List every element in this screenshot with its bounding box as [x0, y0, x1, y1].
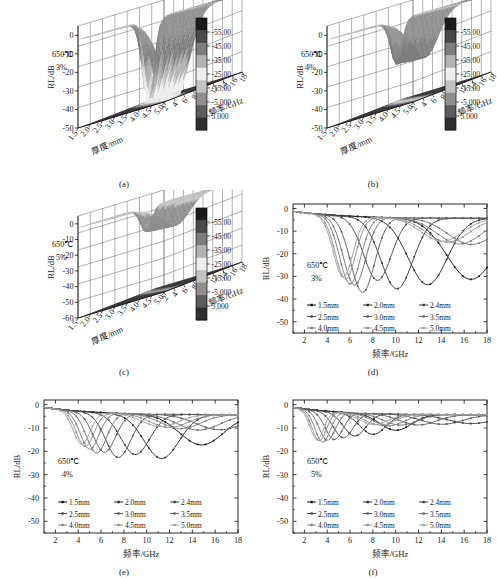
- series-marker: [413, 218, 415, 220]
- series-marker: [421, 420, 423, 422]
- colorbar-tick-label: -45.00: [212, 42, 232, 51]
- panel-e: 246810121416180-10-20-30-40-50频率/GHzRL/d…: [0, 378, 248, 578]
- legend-item-label: 3.5mm: [430, 313, 451, 322]
- series-marker: [470, 223, 472, 225]
- legend-item-label: 2.0mm: [374, 498, 395, 507]
- legend-item-label: 4.5mm: [374, 521, 395, 530]
- y-tick-label: 4: [170, 290, 180, 298]
- series-marker: [221, 429, 223, 431]
- series-marker: [349, 274, 351, 276]
- colorbar-swatch: [196, 308, 207, 321]
- series-marker: [156, 420, 158, 422]
- x-tick-label: 18: [483, 536, 491, 545]
- series-marker: [462, 275, 464, 277]
- z-tick-label: 0: [69, 31, 73, 40]
- annotation-concentration: 3%: [56, 63, 67, 72]
- series-marker: [132, 424, 134, 426]
- series-marker: [156, 425, 158, 427]
- legend-swatch-marker: [173, 512, 175, 514]
- x-tick-label: 16: [460, 336, 468, 345]
- legend-swatch-marker: [310, 327, 312, 329]
- series-marker: [486, 238, 488, 240]
- series-marker: [324, 415, 326, 417]
- y-tick-label: -50: [277, 318, 288, 327]
- legend-item-label: 3.5mm: [430, 510, 451, 519]
- x-tick-label: 4: [76, 536, 80, 545]
- series-marker: [462, 231, 464, 233]
- legend-swatch-marker: [117, 501, 119, 503]
- z-tick-label: -40: [63, 282, 74, 291]
- x-axis-title: 厚度/mm: [89, 323, 125, 347]
- x-tick-label: 12: [165, 536, 173, 545]
- series-marker: [470, 417, 472, 419]
- series-marker: [221, 414, 223, 416]
- series-marker: [478, 416, 480, 418]
- y-tick-label: 4: [170, 100, 180, 108]
- series-marker: [124, 444, 126, 446]
- series-marker: [421, 414, 423, 416]
- series-marker: [405, 426, 407, 428]
- series-marker: [116, 430, 118, 432]
- series-marker: [478, 226, 480, 228]
- series-marker: [357, 219, 359, 221]
- series-marker: [389, 428, 391, 430]
- series-marker: [197, 415, 199, 417]
- series-marker: [454, 422, 456, 424]
- annotation-concentration: 5%: [56, 253, 67, 262]
- series-marker: [84, 446, 86, 448]
- series-marker: [229, 414, 231, 416]
- series-marker: [462, 236, 464, 238]
- series-marker: [349, 223, 351, 225]
- series-marker: [389, 413, 391, 415]
- series-marker: [349, 283, 351, 285]
- series-marker: [108, 445, 110, 447]
- y-tick-label: -40: [28, 494, 39, 503]
- series-marker: [181, 437, 183, 439]
- x-tick-label: 6: [348, 536, 352, 545]
- series-marker: [181, 420, 183, 422]
- series-marker: [124, 414, 126, 416]
- x-tick: [77, 128, 79, 131]
- colorbar-tick-label: -55.00: [212, 218, 232, 227]
- series-marker: [75, 437, 77, 439]
- series-marker: [446, 232, 448, 234]
- series-marker: [108, 412, 110, 414]
- series-marker: [132, 453, 134, 455]
- series-marker: [438, 414, 440, 416]
- series-marker: [405, 220, 407, 222]
- series-marker: [92, 447, 94, 449]
- x-tick: [326, 128, 328, 131]
- x-axis-title: 频率/GHz: [372, 548, 409, 559]
- y-tick-label: -30: [277, 471, 288, 480]
- series-marker: [237, 414, 239, 416]
- z-tick-label: -40: [63, 105, 74, 114]
- legend-item-label: 2.5mm: [318, 510, 339, 519]
- series-marker: [373, 241, 375, 243]
- legend-swatch-marker: [117, 512, 119, 514]
- series-marker: [430, 422, 432, 424]
- series-marker: [486, 267, 488, 269]
- series-marker: [92, 425, 94, 427]
- x-tick-label: 14: [188, 536, 196, 545]
- colorbar-tick-label: 5.000: [212, 302, 229, 311]
- colorbar-swatch: [445, 93, 456, 106]
- series-marker: [172, 413, 174, 415]
- series-marker: [373, 418, 375, 420]
- colorbar-tick-label: -25.00: [461, 70, 481, 79]
- colorbar-tick-label: -5.000: [212, 98, 232, 107]
- y-tick: [423, 98, 425, 101]
- series-marker: [333, 432, 335, 434]
- series-marker: [197, 424, 199, 426]
- series-marker: [67, 415, 69, 417]
- series-marker: [405, 218, 407, 220]
- series-marker: [389, 258, 391, 260]
- series-marker: [413, 424, 415, 426]
- panel-d: 246810121416180-10-20-30-40-50频率/GHzRL/d…: [249, 190, 497, 378]
- y-tick: [193, 91, 195, 94]
- series-marker: [148, 447, 150, 449]
- series-marker: [75, 423, 77, 425]
- x-tick-label: 12: [414, 536, 422, 545]
- series-marker: [100, 449, 102, 451]
- series-marker: [172, 423, 174, 425]
- series-marker: [67, 410, 69, 412]
